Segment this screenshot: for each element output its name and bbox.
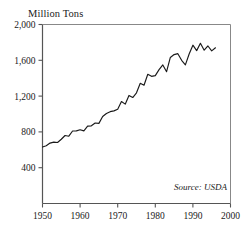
line-chart: Million Tons 4008001,2001,6002,000 19501… — [0, 0, 246, 233]
x-axis-ticks: 195019601970198019902000 — [33, 204, 240, 221]
x-tick-label: 1990 — [183, 211, 202, 221]
y-tick-label: 1,200 — [14, 92, 36, 102]
y-tick-label: 1,600 — [14, 56, 36, 66]
data-series-group — [43, 43, 216, 147]
y-axis-ticks: 4008001,2001,6002,000 — [14, 20, 42, 173]
y-tick-label: 800 — [21, 127, 36, 137]
data-line — [43, 43, 216, 147]
source-annotation: Source: USDA — [174, 182, 227, 192]
y-tick-label: 400 — [21, 163, 36, 173]
x-tick-label: 1980 — [146, 211, 165, 221]
x-tick-label: 1950 — [33, 211, 52, 221]
plot-frame — [43, 25, 231, 204]
y-axis-title: Million Tons — [28, 8, 83, 19]
x-tick-label: 1960 — [71, 211, 90, 221]
y-tick-label: 2,000 — [14, 20, 36, 30]
x-tick-label: 2000 — [221, 211, 240, 221]
x-tick-label: 1970 — [108, 211, 127, 221]
chart-figure: Million Tons 4008001,2001,6002,000 19501… — [0, 0, 246, 233]
